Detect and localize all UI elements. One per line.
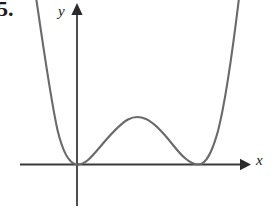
x-axis-arrow-icon bbox=[240, 159, 251, 170]
y-axis-arrow-icon bbox=[71, 3, 82, 15]
graph-plot bbox=[0, 0, 271, 215]
y-axis-label: y bbox=[58, 4, 65, 19]
x-axis-label: x bbox=[256, 153, 263, 168]
figure-container: 5. y x bbox=[0, 0, 271, 215]
quartic-curve bbox=[36, 0, 240, 165]
